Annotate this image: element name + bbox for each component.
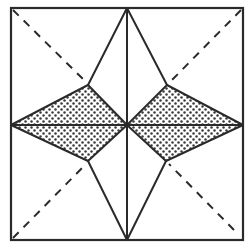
dashed-diagonal-top-right [170, 10, 241, 82]
left-diamond [11, 85, 127, 161]
origami-crease-diagram [0, 0, 251, 248]
diagram-canvas [0, 0, 251, 248]
bottom-to-lower-right [127, 161, 166, 240]
dashed-diagonal-bottom-right [169, 164, 234, 230]
dashed-diagonal-top-left [13, 10, 86, 82]
bottom-to-lower-left [88, 161, 127, 240]
top-to-upper-left [88, 8, 127, 85]
dashed-diagonal-bottom-left [13, 164, 86, 238]
right-diamond [127, 85, 243, 161]
top-to-upper-right [127, 8, 167, 85]
